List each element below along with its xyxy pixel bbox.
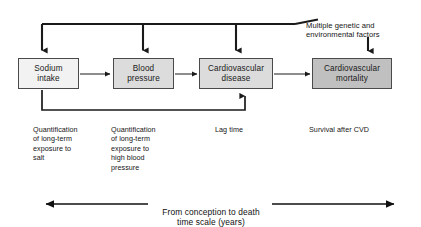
external-factor-line2: environmental factors — [306, 30, 380, 39]
caption-survival-after-cvd: Survival after CVD — [309, 125, 409, 134]
node-blood-pressure[interactable]: Blood pressure — [113, 58, 174, 89]
diagram-canvas: Sodium intake Blood pressure Cardiovascu… — [0, 0, 421, 227]
node-sodium-intake-line1: Sodium — [34, 64, 62, 74]
caption-quantification-blood-pressure: Quantification of long-term exposure to … — [111, 125, 185, 172]
node-cardiovascular-mortality-line2: mortality — [324, 74, 380, 84]
timeline-label: From conception to death time scale (yea… — [145, 196, 277, 227]
timeline-line1: From conception to death — [162, 207, 259, 217]
node-cardiovascular-disease-line1: Cardiovascular — [208, 64, 264, 74]
node-cardiovascular-disease-line2: disease — [208, 74, 264, 84]
node-sodium-intake[interactable]: Sodium intake — [18, 58, 79, 89]
node-cardiovascular-disease[interactable]: Cardiovascular disease — [199, 58, 273, 89]
node-sodium-intake-line2: intake — [34, 74, 62, 84]
external-factor-line1: Multiple genetic and — [306, 21, 375, 30]
top-factor-bus — [42, 20, 318, 51]
external-factor-label: Multiple genetic and environmental facto… — [306, 11, 421, 40]
node-blood-pressure-line2: pressure — [127, 74, 160, 84]
sodium-to-disease-feedback — [42, 90, 245, 110]
caption-quantification-salt: Quantification of long-term exposure to … — [33, 125, 105, 163]
timeline-line2: time scale (years) — [177, 217, 245, 227]
caption-lag-time: Lag time — [215, 125, 275, 134]
node-cardiovascular-mortality[interactable]: Cardiovascular mortality — [312, 58, 392, 89]
node-blood-pressure-line1: Blood — [127, 64, 160, 74]
node-cardiovascular-mortality-line1: Cardiovascular — [324, 64, 380, 74]
